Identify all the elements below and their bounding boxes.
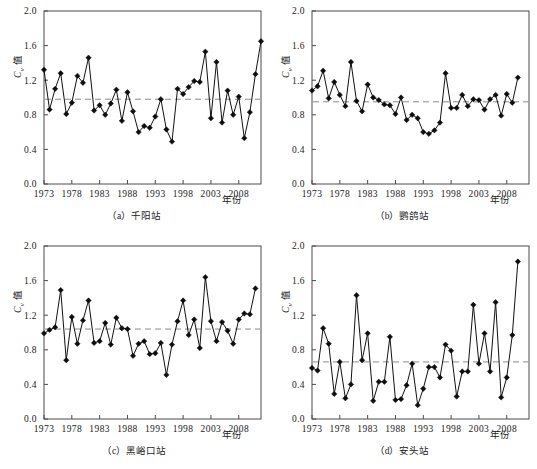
data-point-marker bbox=[371, 95, 376, 100]
y-tick-label: 2.0 bbox=[292, 241, 305, 251]
data-point-marker bbox=[153, 114, 158, 119]
y-tick-label: 0.0 bbox=[292, 179, 305, 189]
data-point-marker bbox=[365, 331, 370, 336]
chart-panel-c: 0.00.40.81.21.62.01973197819831988199319… bbox=[0, 235, 268, 469]
x-axis-label-c: 年份 bbox=[222, 427, 242, 441]
data-point-marker bbox=[58, 71, 63, 76]
data-point-marker bbox=[437, 375, 442, 380]
data-point-marker bbox=[365, 82, 370, 87]
data-point-marker bbox=[337, 359, 342, 364]
y-axis-label-b: Cv 值 bbox=[278, 55, 294, 78]
x-tick-label: 1983 bbox=[89, 424, 110, 434]
data-point-marker bbox=[498, 395, 503, 400]
series-line bbox=[44, 277, 255, 375]
data-point-marker bbox=[354, 98, 359, 103]
y-tick-label: 1.6 bbox=[24, 41, 37, 51]
x-tick-label: 1978 bbox=[330, 189, 351, 199]
y-axis-label-c: Cv 值 bbox=[10, 290, 26, 313]
data-point-marker bbox=[97, 338, 102, 343]
x-axis-label-a: 年份 bbox=[222, 192, 242, 206]
x-tick-label: 1993 bbox=[413, 189, 434, 199]
y-tick-label: 2.0 bbox=[24, 6, 37, 16]
data-point-marker bbox=[376, 379, 381, 384]
data-point-marker bbox=[86, 298, 91, 303]
data-point-marker bbox=[253, 286, 258, 291]
x-tick-label: 1998 bbox=[173, 424, 194, 434]
data-point-marker bbox=[208, 116, 213, 121]
data-point-marker bbox=[354, 293, 359, 298]
data-point-marker bbox=[482, 107, 487, 112]
data-point-marker bbox=[426, 131, 431, 136]
x-tick-label: 1998 bbox=[441, 424, 462, 434]
data-point-marker bbox=[108, 101, 113, 106]
data-point-marker bbox=[164, 372, 169, 377]
x-tick-label: 1993 bbox=[145, 424, 166, 434]
y-tick-label: 1.6 bbox=[292, 276, 305, 286]
data-point-marker bbox=[69, 100, 74, 105]
data-point-marker bbox=[326, 341, 331, 346]
data-point-marker bbox=[169, 139, 174, 144]
data-point-marker bbox=[219, 319, 224, 324]
data-point-marker bbox=[114, 87, 119, 92]
x-axis-label-b: 年份 bbox=[490, 192, 510, 206]
data-point-marker bbox=[80, 318, 85, 323]
data-point-marker bbox=[69, 314, 74, 319]
data-point-marker bbox=[326, 96, 331, 101]
y-tick-label: 0.4 bbox=[292, 380, 305, 390]
data-point-marker bbox=[147, 125, 152, 130]
data-point-marker bbox=[197, 79, 202, 84]
data-point-marker bbox=[136, 341, 141, 346]
y-tick-label: 0.8 bbox=[292, 345, 305, 355]
x-tick-label: 1983 bbox=[357, 424, 378, 434]
y-tick-label: 1.6 bbox=[292, 41, 305, 51]
data-point-marker bbox=[382, 379, 387, 384]
data-point-marker bbox=[125, 326, 130, 331]
data-point-marker bbox=[415, 402, 420, 407]
panel-caption-c: （c）黑峪口站 bbox=[0, 443, 268, 457]
data-point-marker bbox=[225, 88, 230, 93]
data-point-marker bbox=[230, 341, 235, 346]
data-point-marker bbox=[510, 332, 515, 337]
data-point-marker bbox=[253, 71, 258, 76]
x-tick-label: 1983 bbox=[89, 189, 110, 199]
x-tick-label: 1988 bbox=[117, 189, 138, 199]
data-point-marker bbox=[460, 369, 465, 374]
data-point-marker bbox=[337, 92, 342, 97]
data-point-marker bbox=[119, 118, 124, 123]
y-tick-label: 0.0 bbox=[292, 414, 305, 424]
y-tick-label: 0.8 bbox=[24, 110, 37, 120]
x-tick-label: 1988 bbox=[385, 424, 406, 434]
data-point-marker bbox=[219, 120, 224, 125]
data-point-marker bbox=[332, 79, 337, 84]
data-point-marker bbox=[415, 116, 420, 121]
data-point-marker bbox=[343, 396, 348, 401]
data-point-marker bbox=[432, 364, 437, 369]
data-point-marker bbox=[125, 90, 130, 95]
data-point-marker bbox=[141, 338, 146, 343]
data-point-marker bbox=[398, 396, 403, 401]
data-point-marker bbox=[103, 112, 108, 117]
x-tick-label: 1998 bbox=[441, 189, 462, 199]
data-point-marker bbox=[404, 383, 409, 388]
panel-caption-b: （b）鹦鸽站 bbox=[268, 208, 536, 222]
data-point-marker bbox=[158, 97, 163, 102]
data-point-marker bbox=[348, 59, 353, 64]
data-point-marker bbox=[332, 391, 337, 396]
data-point-marker bbox=[119, 325, 124, 330]
x-axis-label-d: 年份 bbox=[490, 427, 510, 441]
data-point-marker bbox=[197, 345, 202, 350]
x-tick-label: 1993 bbox=[413, 424, 434, 434]
data-point-marker bbox=[47, 107, 52, 112]
data-point-marker bbox=[498, 113, 503, 118]
data-point-marker bbox=[180, 298, 185, 303]
x-tick-label: 1993 bbox=[145, 189, 166, 199]
x-tick-label: 1978 bbox=[62, 189, 83, 199]
panel-caption-d: （d）安头站 bbox=[268, 443, 536, 457]
y-tick-label: 0.8 bbox=[24, 345, 37, 355]
data-point-marker bbox=[247, 110, 252, 115]
chart-panel-d: 0.00.40.81.21.62.01973197819831988199319… bbox=[268, 235, 536, 469]
data-point-marker bbox=[487, 369, 492, 374]
data-point-marker bbox=[147, 351, 152, 356]
data-point-marker bbox=[47, 327, 52, 332]
x-tick-label: 1978 bbox=[330, 424, 351, 434]
